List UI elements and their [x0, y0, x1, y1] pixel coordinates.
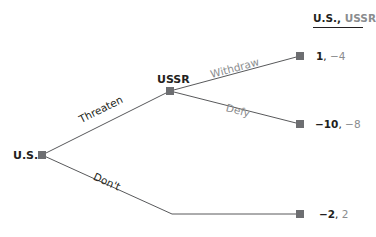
payoff-separator: ,	[323, 50, 330, 62]
header-separator: ,	[337, 12, 341, 24]
payoff-us: −10	[315, 118, 338, 130]
payoff-header: U.S., USSR	[313, 12, 376, 24]
terminal-defy	[296, 120, 304, 128]
payoff-ussr: −8	[345, 118, 360, 130]
payoff-withdraw: 1, −4	[316, 51, 345, 62]
payoff-separator: ,	[335, 208, 342, 220]
node-us-root	[38, 151, 46, 159]
edge-dont	[42, 155, 300, 214]
payoff-defy: −10, −8	[315, 119, 361, 130]
node-ussr	[166, 87, 174, 95]
payoff-ussr: −4	[330, 50, 345, 62]
terminal-withdraw	[296, 52, 304, 60]
header-underline	[313, 27, 363, 28]
terminal-dont	[296, 210, 304, 218]
header-player-us: U.S.	[313, 12, 337, 24]
header-player-ussr: USSR	[345, 12, 376, 24]
node-label-us: U.S.	[13, 150, 38, 161]
payoff-us: −2	[319, 208, 335, 220]
node-label-ussr: USSR	[157, 74, 190, 85]
payoff-ussr: 2	[342, 208, 349, 220]
payoff-dont: −2, 2	[319, 209, 348, 220]
